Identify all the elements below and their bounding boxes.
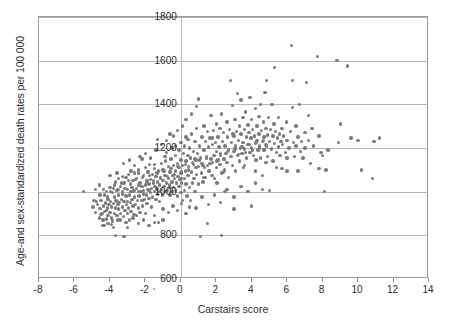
scatter-point [200, 195, 203, 198]
scatter-point [98, 207, 101, 210]
scatter-point [218, 163, 221, 166]
scatter-point [155, 171, 158, 174]
scatter-point [264, 127, 267, 130]
scatter-point [98, 183, 101, 186]
scatter-point [195, 127, 198, 130]
y-tick-label: 1600 [135, 56, 177, 66]
scatter-point [285, 120, 288, 123]
scatter-point [235, 130, 238, 133]
scatter-point [287, 146, 290, 149]
scatter-point [196, 152, 199, 155]
scatter-point [188, 186, 191, 189]
scatter-point [263, 91, 266, 94]
scatter-point [356, 139, 359, 142]
scatter-point [299, 150, 302, 153]
scatter-point [195, 105, 198, 108]
scatter-point [177, 185, 180, 188]
scatter-point [115, 171, 118, 174]
scatter-point [241, 141, 244, 144]
scatter-point [179, 177, 182, 180]
scatter-point [197, 182, 200, 185]
scatter-point [215, 150, 218, 153]
scatter-point [115, 214, 118, 217]
x-tick-label: -8 [23, 284, 53, 295]
x-tick-label: 6 [271, 284, 301, 295]
scatter-point [321, 154, 324, 157]
gridline-y [39, 192, 427, 193]
scatter-point [237, 153, 240, 156]
scatter-point [339, 122, 342, 125]
scatter-point [193, 140, 196, 143]
scatter-point [163, 155, 166, 158]
scatter-point [121, 192, 124, 195]
scatter-point [207, 203, 210, 206]
scatter-point [176, 129, 179, 132]
scatter-point [243, 164, 246, 167]
scatter-point [207, 169, 210, 172]
scatter-point [131, 216, 134, 219]
scatter-point [167, 211, 170, 214]
scatter-point [133, 171, 136, 174]
scatter-point [162, 169, 165, 172]
scatter-point [130, 186, 133, 189]
scatter-point [360, 168, 363, 171]
scatter-point [239, 185, 242, 188]
scatter-point [254, 107, 257, 110]
scatter-point [108, 211, 111, 214]
scatter-point [277, 145, 280, 148]
scatter-point [300, 140, 303, 143]
x-tick-mark [215, 278, 216, 282]
scatter-point [213, 193, 216, 196]
scatter-point [121, 175, 124, 178]
scatter-point [188, 146, 191, 149]
scatter-point [188, 205, 191, 208]
scatter-point [193, 157, 196, 160]
x-tick-mark [180, 278, 181, 282]
scatter-point [225, 120, 228, 123]
scatter-point [208, 162, 211, 165]
scatter-point [128, 193, 131, 196]
scatter-point [215, 181, 218, 184]
scatter-point [233, 118, 236, 121]
scatter-point [225, 188, 228, 191]
scatter-point [206, 130, 209, 133]
scatter-point [245, 156, 248, 159]
scatter-point [231, 164, 234, 167]
scatter-point [296, 135, 299, 138]
x-tick-mark [144, 278, 145, 282]
scatter-point [317, 134, 320, 137]
scatter-point [251, 148, 254, 151]
x-tick-mark [322, 278, 323, 282]
scatter-point [198, 144, 201, 147]
scatter-point [170, 180, 173, 183]
scatter-point [274, 130, 277, 133]
scatter-point [143, 198, 146, 201]
x-tick-label: -6 [58, 284, 88, 295]
scatter-point [229, 79, 232, 82]
scatter-point [293, 155, 296, 158]
scatter-point [177, 148, 180, 151]
scatter-point [197, 97, 200, 100]
scatter-point [222, 131, 225, 134]
scatter-point [153, 167, 156, 170]
scatter-point [324, 168, 327, 171]
scatter-point [257, 132, 260, 135]
x-tick-label: -4 [94, 284, 124, 295]
scatter-point [223, 157, 226, 160]
scatter-point [215, 159, 218, 162]
x-tick-mark [109, 278, 110, 282]
y-tick-label: 1200 [135, 143, 177, 153]
scatter-point [186, 174, 189, 177]
scatter-point [153, 221, 156, 224]
scatter-chart-figure: Age-and sex-standardized death rates per… [0, 0, 451, 326]
scatter-point [202, 124, 205, 127]
scatter-point [180, 202, 183, 205]
x-tick-mark [428, 278, 429, 282]
scatter-point [201, 164, 204, 167]
scatter-point [310, 127, 313, 130]
scatter-point [303, 146, 306, 149]
scatter-point [157, 221, 160, 224]
scatter-point [94, 188, 97, 191]
x-tick-mark [357, 278, 358, 282]
scatter-point [234, 169, 237, 172]
